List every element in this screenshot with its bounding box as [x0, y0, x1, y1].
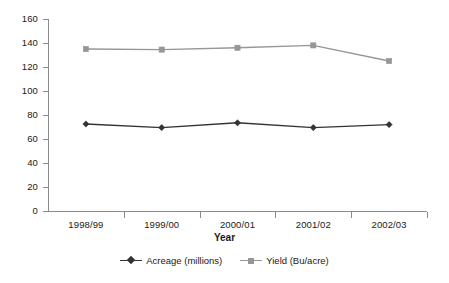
legend-item-acreage[interactable]: Acreage (millions)	[120, 255, 222, 266]
legend-label-yield: Yield (Bu/acre)	[266, 255, 328, 266]
series-yield	[83, 43, 391, 64]
data-point-square-icon	[83, 46, 88, 51]
line-chart: 020406080100120140160 1998/991999/002000…	[0, 0, 449, 283]
legend-label-acreage: Acreage (millions)	[146, 255, 222, 266]
data-point-square-icon	[387, 58, 392, 63]
data-point-diamond-icon	[83, 121, 89, 127]
legend-item-yield[interactable]: Yield (Bu/acre)	[240, 255, 328, 266]
chart-legend: Acreage (millions) Yield (Bu/acre)	[0, 255, 449, 266]
legend-diamond-marker-icon	[120, 256, 142, 266]
data-point-diamond-icon	[159, 125, 165, 131]
data-point-diamond-icon	[310, 125, 316, 131]
data-point-square-icon	[311, 43, 316, 48]
data-point-diamond-icon	[234, 120, 240, 126]
data-point-square-icon	[159, 47, 164, 52]
series-acreage	[83, 120, 392, 131]
data-point-square-icon	[235, 45, 240, 50]
x-axis-title: Year	[0, 232, 449, 243]
legend-square-marker-icon	[240, 256, 262, 266]
data-point-diamond-icon	[386, 122, 392, 128]
